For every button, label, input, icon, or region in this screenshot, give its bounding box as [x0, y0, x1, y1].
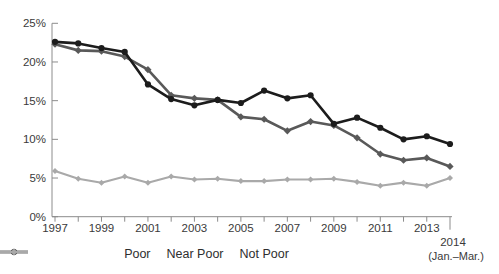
data-point-marker — [122, 173, 128, 179]
uninsured-by-poverty-status-chart: 0%5%10%15%20%25%199719992001200320052007… — [0, 0, 499, 274]
data-point-marker — [400, 136, 406, 142]
y-axis-tick-label: 25% — [23, 17, 46, 29]
data-point-marker — [284, 95, 290, 101]
data-point-marker — [215, 97, 221, 103]
data-point-marker — [191, 102, 197, 108]
data-point-marker — [424, 133, 430, 139]
x-axis-tick-label: 2007 — [275, 222, 301, 234]
data-point-marker — [75, 176, 81, 182]
series-line-near-poor — [55, 42, 450, 144]
data-point-marker — [377, 183, 383, 189]
x-axis-tick-label: 2013 — [414, 222, 440, 234]
series-line-not-poor — [55, 171, 450, 186]
data-point-marker — [98, 180, 104, 186]
data-point-marker — [122, 49, 128, 55]
y-axis-tick-label: 10% — [23, 133, 46, 145]
data-point-marker — [98, 45, 104, 51]
data-point-marker — [447, 141, 453, 147]
data-point-marker — [424, 183, 430, 189]
x-axis-tick-label: 2001 — [135, 222, 161, 234]
legend-item-poor: Poor — [124, 247, 150, 261]
chart-legend: PoorNear PoorNot Poor — [0, 247, 413, 261]
x-axis-tick-label: 1997 — [42, 222, 68, 234]
data-point-marker — [191, 95, 198, 102]
data-point-marker — [307, 118, 314, 125]
data-point-marker — [308, 177, 314, 183]
data-point-marker — [238, 178, 244, 184]
x-axis-final-label: 2014 — [440, 236, 466, 248]
series-line-poor — [55, 44, 450, 166]
data-point-marker — [145, 81, 151, 87]
x-axis-tick-label: 2003 — [182, 222, 208, 234]
legend-item-not-poor: Not Poor — [240, 247, 289, 261]
data-point-marker — [191, 177, 197, 183]
data-point-marker — [145, 180, 151, 186]
data-point-marker — [447, 175, 453, 181]
y-axis-tick-label: 15% — [23, 95, 46, 107]
data-point-marker — [168, 173, 174, 179]
data-point-marker — [238, 100, 244, 106]
x-axis-tick-label: 2009 — [321, 222, 347, 234]
data-point-marker — [331, 121, 337, 127]
data-point-marker — [400, 157, 407, 164]
y-axis-tick-label: 20% — [23, 56, 46, 68]
y-axis-tick-label: 0% — [29, 211, 46, 223]
data-point-marker — [52, 168, 58, 174]
data-point-marker — [377, 125, 383, 131]
legend-item-near-poor: Near Poor — [167, 247, 224, 261]
y-axis-tick-label: 5% — [29, 172, 46, 184]
data-point-marker — [307, 92, 313, 98]
legend-label: Near Poor — [167, 247, 224, 261]
line-chart-canvas: 0%5%10%15%20%25%199719992001200320052007… — [0, 0, 499, 274]
data-point-marker — [423, 154, 430, 161]
data-point-marker — [215, 176, 221, 182]
legend-label: Not Poor — [240, 247, 289, 261]
x-axis-tick-label: 1999 — [89, 222, 115, 234]
data-point-marker — [75, 47, 82, 54]
diamond-marker-swatch — [0, 247, 28, 257]
data-point-marker — [75, 40, 81, 46]
data-point-marker — [52, 39, 58, 45]
data-point-marker — [401, 180, 407, 186]
data-point-marker — [331, 176, 337, 182]
legend-label: Poor — [124, 247, 150, 261]
x-axis-final-note: (Jan.–Mar.) — [428, 250, 484, 262]
x-axis-tick-label: 2005 — [228, 222, 254, 234]
data-point-marker — [261, 178, 267, 184]
data-point-marker — [354, 115, 360, 121]
data-point-marker — [168, 96, 174, 102]
data-point-marker — [284, 177, 290, 183]
x-axis-tick-label: 2011 — [368, 222, 393, 234]
data-point-marker — [261, 88, 267, 94]
data-point-marker — [354, 179, 360, 185]
data-point-marker — [446, 163, 453, 170]
